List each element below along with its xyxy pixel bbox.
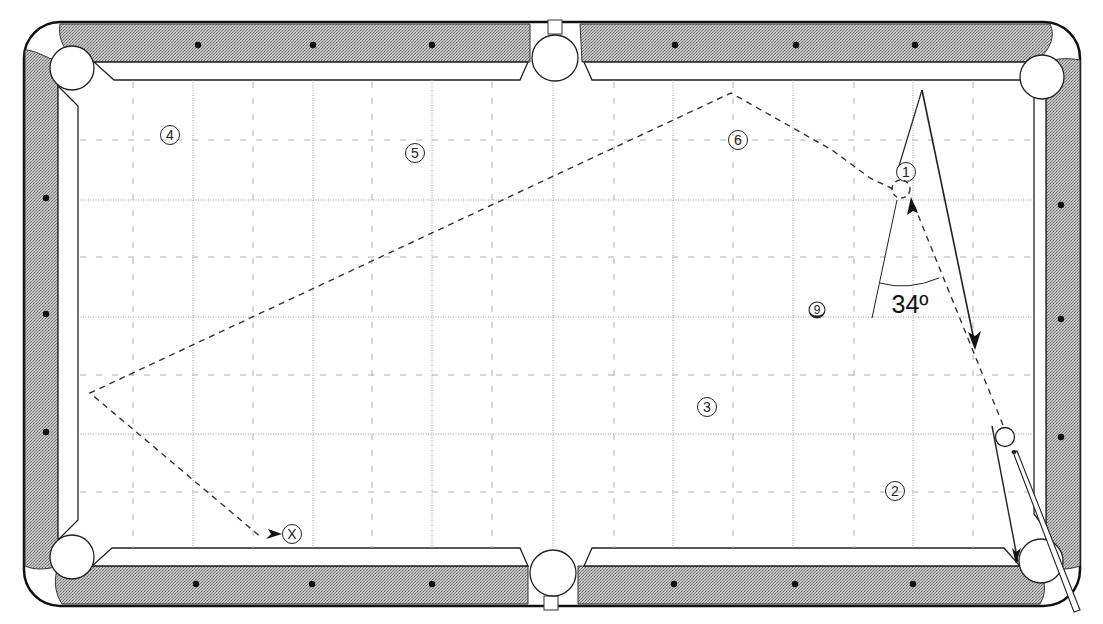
pool-table-diagram: 1 2 3 4 5 6 9 X 34º (0, 0, 1103, 624)
ball-label-5: 5 (405, 143, 425, 163)
table-svg (0, 0, 1103, 624)
ball-label-3: 3 (697, 397, 717, 417)
angle-label: 34º (892, 290, 929, 319)
pocket-bottom-middle (530, 550, 576, 596)
pocket-top-right (1020, 55, 1064, 99)
cue-ball (996, 428, 1015, 447)
ball-label-6: 6 (728, 130, 748, 150)
ball-label-9: 9 (809, 302, 826, 319)
pocket-top-left (50, 46, 94, 90)
ball-label-1: 1 (896, 162, 916, 182)
target-marker-x: X (282, 524, 302, 544)
pocket-top-middle (532, 35, 578, 81)
pocket-bottom-left (50, 535, 94, 579)
ball-label-2: 2 (885, 481, 905, 501)
ball-label-4: 4 (160, 125, 180, 145)
